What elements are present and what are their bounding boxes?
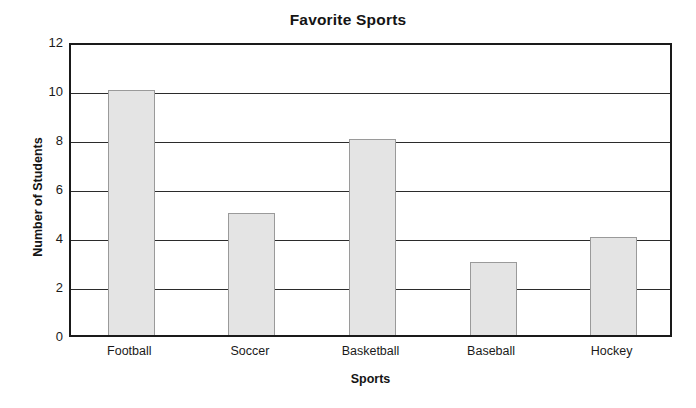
y-tick-label-4: 4 <box>29 232 63 245</box>
bar-baseball <box>470 262 517 336</box>
x-tick-label-baseball: Baseball <box>467 344 515 358</box>
y-tick-label-8: 8 <box>29 134 63 147</box>
y-axis-tick-labels: 024681012 <box>25 43 63 337</box>
x-tick-label-football: Football <box>107 344 151 358</box>
bar-basketball <box>349 139 396 335</box>
y-tick-label-0: 0 <box>29 330 63 343</box>
x-tick-label-basketball: Basketball <box>342 344 400 358</box>
x-axis-title: Sports <box>69 372 672 386</box>
y-tick-label-10: 10 <box>29 85 63 98</box>
y-tick-label-2: 2 <box>29 281 63 294</box>
x-tick-label-soccer: Soccer <box>230 344 269 358</box>
x-axis-tick-labels: FootballSoccerBasketballBaseballHockey <box>69 344 672 364</box>
gridline-10 <box>71 93 670 94</box>
bar-hockey <box>590 237 637 335</box>
plot-area <box>69 43 672 337</box>
bar-soccer <box>228 213 275 336</box>
bar-football <box>108 90 155 335</box>
chart-title: Favorite Sports <box>0 11 696 29</box>
y-tick-label-12: 12 <box>29 36 63 49</box>
x-tick-label-hockey: Hockey <box>591 344 633 358</box>
y-tick-label-6: 6 <box>29 183 63 196</box>
